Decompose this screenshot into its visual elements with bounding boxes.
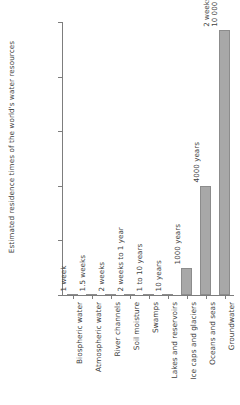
bar-slot: 1 to 10 years <box>143 22 154 295</box>
bar-value-label: 2 weeks <box>98 261 106 291</box>
bar[interactable] <box>181 268 192 295</box>
bar[interactable] <box>219 30 230 295</box>
category-label: Soil moisture <box>133 302 141 350</box>
y-tick-mark <box>58 77 62 78</box>
x-tick-mark <box>225 295 226 299</box>
category-label: Ice caps and glaciers <box>190 302 198 380</box>
y-tick-mark <box>58 295 62 296</box>
bar-value-label: 1000 years <box>174 224 182 264</box>
x-tick-mark <box>187 295 188 299</box>
category-label: Groundwater <box>228 302 236 350</box>
bar-value-label: 2 weeks to 1 year <box>117 227 125 291</box>
bar-slot: 2 weeks to 10 000 years <box>219 22 230 295</box>
x-tick-mark <box>130 295 131 299</box>
y-tick-mark <box>58 186 62 187</box>
bar-value-label: 2 weeks to 10 000 years <box>204 0 221 27</box>
bar-slot: 1 week <box>67 22 78 295</box>
category-label: Atmospheric water <box>95 302 103 372</box>
y-axis-title: Estimated residence times of the world's… <box>7 2 21 292</box>
y-tick-mark <box>58 22 62 23</box>
x-tick-mark <box>149 295 150 299</box>
bar-slot: 4000 years <box>200 22 211 295</box>
bar-value-label: 10 years <box>155 260 163 291</box>
bar-slot: 2 weeks to 1 year <box>124 22 135 295</box>
x-tick-mark <box>168 295 169 299</box>
plot-area: 1 week1.5 weeks2 weeks2 weeks to 1 year1… <box>62 22 234 295</box>
bar-slot: 10 years <box>162 22 173 295</box>
x-tick-mark <box>111 295 112 299</box>
bar-value-label: 1.5 weeks <box>79 255 87 291</box>
y-tick-mark <box>58 131 62 132</box>
bar-slot: 1.5 weeks <box>86 22 97 295</box>
x-tick-mark <box>206 295 207 299</box>
bar-slot: 1000 years <box>181 22 192 295</box>
chart-container: Estimated residence times of the world's… <box>0 0 240 405</box>
bars-layer: 1 week1.5 weeks2 weeks2 weeks to 1 year1… <box>63 22 234 295</box>
x-tick-mark <box>92 295 93 299</box>
category-label: Oceans and seas <box>209 302 217 365</box>
category-label: Biospheric water <box>76 302 84 364</box>
category-label: Swamps <box>152 302 160 333</box>
bar-value-label: 4000 years <box>193 142 201 182</box>
bar[interactable] <box>200 186 211 295</box>
bar-slot: 2 weeks <box>105 22 116 295</box>
bar-value-label: 1 to 10 years <box>136 243 144 291</box>
category-label: Lakes and reservoirs <box>171 302 179 378</box>
y-tick-mark <box>58 240 62 241</box>
x-tick-mark <box>73 295 74 299</box>
bar-value-label: 1 week <box>60 265 68 291</box>
category-label: River channels <box>114 302 122 357</box>
